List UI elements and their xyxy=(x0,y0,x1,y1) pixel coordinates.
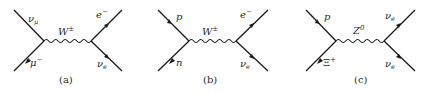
caption-c: (c) xyxy=(354,74,368,85)
label-bottom-left: n xyxy=(176,57,182,68)
boson-propagator xyxy=(44,40,91,43)
label-bottom-left: μ− xyxy=(30,56,43,68)
label-bottom-left: Ξ+ xyxy=(323,56,336,68)
label-top-left: p xyxy=(176,11,183,22)
diagram-b: p W± n e− νe (b) xyxy=(158,8,268,85)
fermion-line-bottom-left xyxy=(158,41,189,71)
label-bottom-right: νe xyxy=(385,58,395,71)
label-boson: W± xyxy=(58,25,74,37)
label-top-right: e− xyxy=(96,8,108,20)
label-boson: W± xyxy=(202,25,218,37)
label-top-left: νμ xyxy=(28,13,38,26)
diagram-a: νμ W± μ− e− νe (a) xyxy=(14,8,122,85)
diagram-c: p Z0 Ξ+ νe νe (c) xyxy=(306,10,415,85)
label-top-right: νe xyxy=(385,10,395,23)
label-top-right: e− xyxy=(240,8,252,20)
boson-propagator xyxy=(336,40,384,43)
label-top-left: p xyxy=(324,11,331,22)
feynman-diagrams: νμ W± μ− e− νe (a) p W± n e− νe (b) p xyxy=(0,0,427,92)
caption-a: (a) xyxy=(59,74,73,85)
label-bottom-right: νe xyxy=(97,58,107,71)
caption-b: (b) xyxy=(203,74,217,85)
label-boson: Z0 xyxy=(352,24,365,36)
fermion-line-top-left xyxy=(306,10,336,41)
fermion-line-top-left xyxy=(158,10,189,41)
label-bottom-right: νe xyxy=(240,58,250,71)
boson-propagator xyxy=(189,40,236,43)
